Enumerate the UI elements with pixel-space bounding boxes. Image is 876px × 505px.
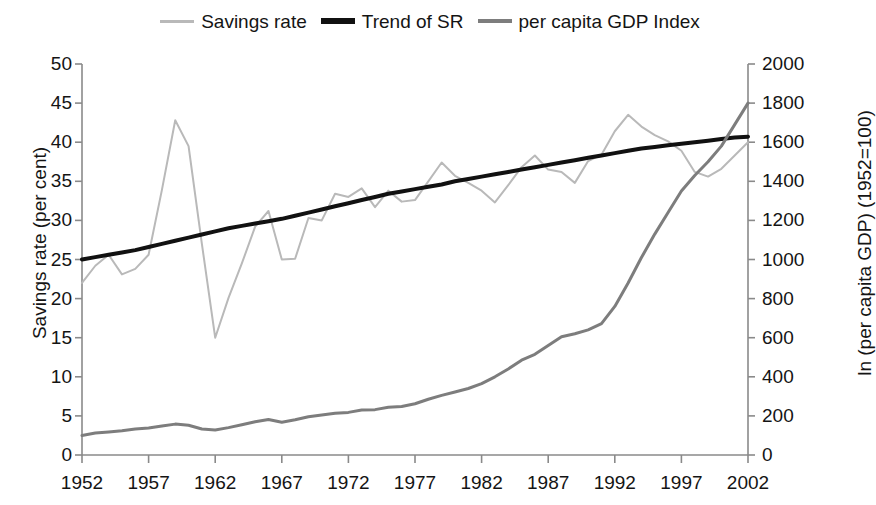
series-line [82, 137, 748, 260]
series-line [82, 103, 748, 435]
